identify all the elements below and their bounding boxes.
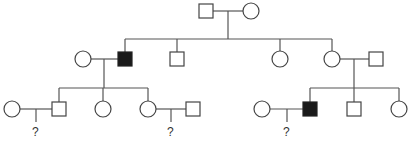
male-unaffected-III-2 (52, 102, 66, 116)
unknown-offspring-label: ? (283, 125, 290, 139)
female-unaffected-III-4 (140, 101, 156, 117)
unknown-offspring-label: ? (167, 125, 174, 139)
pedigree-chart: ? ? ? (0, 0, 412, 145)
male-unaffected-III-5 (186, 102, 200, 116)
female-unaffected-II-5 (324, 51, 340, 67)
male-affected-II-2 (118, 52, 132, 66)
unknown-offspring-label: ? (32, 125, 39, 139)
generation-3-left: ? ? (4, 88, 200, 139)
generation-3-right: ? (254, 88, 407, 139)
female-unaffected-I-2 (243, 3, 259, 19)
female-unaffected-III-9 (391, 101, 407, 117)
female-unaffected-III-1 (4, 101, 20, 117)
male-affected-III-7 (303, 102, 317, 116)
male-unaffected-II-3 (170, 52, 184, 66)
female-unaffected-II-1 (75, 51, 91, 67)
male-unaffected-III-8 (347, 102, 361, 116)
female-unaffected-II-4 (272, 51, 288, 67)
generation-2 (75, 39, 383, 88)
male-unaffected-II-6 (369, 52, 383, 66)
male-unaffected-I-1 (199, 4, 213, 18)
female-unaffected-III-6 (254, 101, 270, 117)
female-unaffected-III-3 (95, 101, 111, 117)
generation-1 (199, 3, 259, 39)
